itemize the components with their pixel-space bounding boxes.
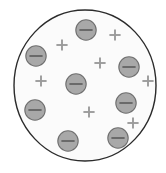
negative-charge-center — [66, 74, 86, 94]
negative-charge-upper-right — [119, 57, 139, 77]
negative-charge-upper-left — [26, 46, 46, 66]
negative-charge-lower-right — [108, 128, 128, 148]
negative-charge-left — [25, 100, 45, 120]
negative-charge-top — [76, 20, 96, 40]
figure-canvas: Charged sphere cross-section A large cir… — [0, 0, 166, 173]
charged-sphere-diagram — [0, 0, 166, 173]
negative-charge-bottom — [58, 131, 78, 151]
negative-charge-right — [116, 93, 136, 113]
